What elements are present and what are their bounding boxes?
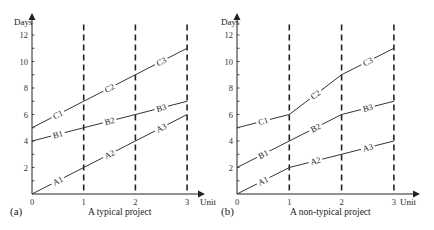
x-tick-label: 0 [30,197,34,207]
x-tick-label: 2 [339,197,343,207]
panel-a-y-axis-label: Days [14,17,33,27]
panel-a-caption: A typical project [88,207,151,217]
panel-b: 246810120123A1A2A3B1B2B3C1C2C3 [225,13,421,207]
panel-b-y-axis-label: Days [221,17,240,27]
y-tick-label: 12 [20,30,29,40]
panel-a: 246810120123A1A2A3B1B2B3C1C2C3 [20,13,206,207]
x-tick-label: 3 [392,197,396,207]
panel-b-tag: (b) [221,205,234,217]
panel-a-tag: (a) [10,205,22,217]
y-tick-label: 8 [229,83,233,93]
x-tick-label: 0 [235,197,239,207]
panel-b-caption: A non-typical project [290,207,371,217]
panel-a-x-axis-label: Unit [200,197,216,207]
y-tick-label: 2 [229,163,233,173]
y-tick-label: 10 [225,57,234,67]
y-tick-label: 4 [229,136,234,146]
y-tick-label: 6 [24,110,28,120]
figure: 246810120123A1A2A3B1B2B3C1C2C32468101201… [0,0,434,230]
x-tick-label: 2 [133,197,137,207]
chart-canvas: 246810120123A1A2A3B1B2B3C1C2C32468101201… [0,0,434,230]
x-tick-label: 1 [287,197,291,207]
y-tick-label: 2 [24,163,28,173]
x-tick-label: 1 [82,197,86,207]
y-tick-label: 6 [229,110,233,120]
y-tick-label: 10 [20,57,29,67]
y-tick-label: 8 [24,83,28,93]
y-tick-label: 4 [24,136,29,146]
y-tick-label: 12 [225,30,234,40]
x-tick-label: 3 [185,197,189,207]
panel-b-x-axis-label: Unit [400,197,416,207]
